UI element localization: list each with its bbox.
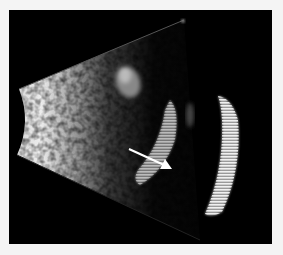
posterior-wall-arc — [200, 90, 245, 220]
ultrasound-scan — [9, 10, 272, 244]
ultrasound-frame — [9, 10, 272, 244]
